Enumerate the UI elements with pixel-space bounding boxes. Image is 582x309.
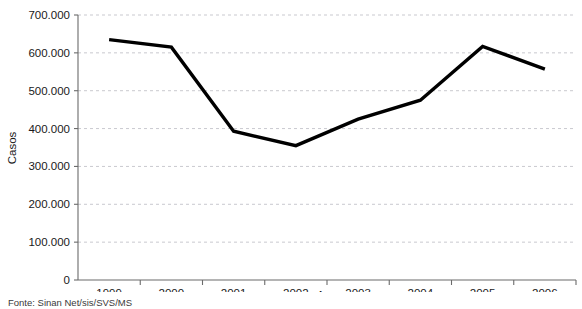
chart-canvas: 0100.000200.000300.000400.000500.000600.…	[0, 0, 582, 292]
y-tick-label: 500.000	[28, 85, 70, 97]
x-tick-label: 2004	[408, 287, 434, 292]
x-tick-label: 2002	[283, 287, 309, 292]
y-axis-title: Casos	[6, 131, 18, 164]
y-tick-label: 0	[64, 274, 70, 286]
x-tick-label: 2006	[532, 287, 558, 292]
y-tick-label: 700.000	[28, 9, 70, 21]
data-series-line	[109, 40, 545, 146]
y-tick-label: 200.000	[28, 198, 70, 210]
line-chart: 0100.000200.000300.000400.000500.000600.…	[0, 0, 582, 309]
y-axis	[74, 15, 78, 280]
x-tick-label: 2000	[159, 287, 185, 292]
x-axis-title: Ano	[317, 289, 337, 292]
y-tick-label: 300.000	[28, 160, 70, 172]
y-tick-label: 100.000	[28, 236, 70, 248]
x-tick-label: 1999	[96, 287, 122, 292]
y-axis-tick-labels: 0100.000200.000300.000400.000500.000600.…	[28, 9, 70, 286]
gridlines	[78, 15, 576, 242]
source-note: Fonte: Sinan Net/sis/SVS/MS	[8, 297, 132, 308]
x-tick-label: 2003	[345, 287, 371, 292]
x-tick-label: 2005	[470, 287, 496, 292]
x-axis	[78, 280, 576, 285]
y-tick-label: 400.000	[28, 123, 70, 135]
y-tick-label: 600.000	[28, 47, 70, 59]
x-tick-label: 2001	[221, 287, 247, 292]
